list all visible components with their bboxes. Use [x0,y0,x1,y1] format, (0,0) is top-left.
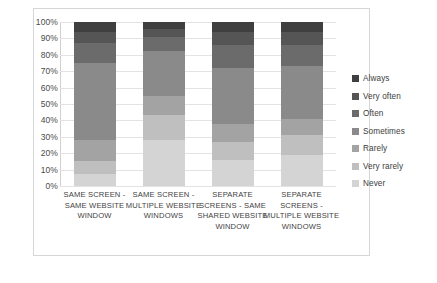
bar-segment-always[interactable] [281,22,323,32]
bar-2[interactable] [143,22,185,186]
y-axis-tick-0: 0% [24,182,58,190]
y-axis-tick-60: 60% [24,84,58,92]
legend-swatch-icon [352,75,359,82]
plot-area [60,22,336,186]
y-axis-tick-100: 100% [24,18,58,26]
legend-label: Always [363,74,390,83]
bar-segment-very-often[interactable] [281,32,323,45]
y-axis-tick-20: 20% [24,149,58,157]
y-axis-tick-40: 40% [24,116,58,124]
bar-segment-very-rarely[interactable] [281,135,323,155]
bar-segment-very-rarely[interactable] [212,142,254,160]
legend-item-very-often[interactable]: Very often [352,88,436,106]
y-axis-tick-80: 80% [24,51,58,59]
bar-segment-very-often[interactable] [74,32,116,43]
legend-item-never[interactable]: Never [352,175,436,193]
bar-1[interactable] [74,22,116,186]
bar-segment-never[interactable] [74,174,116,185]
bar-segment-often[interactable] [74,43,116,63]
legend-label: Very rarely [363,162,403,171]
y-axis-tick-50: 50% [24,100,58,108]
legend-swatch-icon [352,110,359,117]
y-axis-tick-10: 10% [24,166,58,174]
legend-swatch-icon [352,180,359,187]
bar-segment-often[interactable] [212,45,254,68]
bar-segment-never[interactable] [212,160,254,186]
bar-segment-very-often[interactable] [212,32,254,45]
bar-segment-rarely[interactable] [212,124,254,142]
x-axis-label-2: SAME SCREEN - MULTIPLE WEBSITE WINDOWS [125,190,203,222]
bar-segment-sometimes[interactable] [74,63,116,140]
chart-container: 100%90%80%70%60%50%40%30%20%10%0% SAME S… [0,0,437,283]
x-axis-category-labels: SAME SCREEN - SAME WEBSITE WINDOWSAME SC… [60,190,336,252]
legend-label: Rarely [363,144,387,153]
bar-segment-sometimes[interactable] [281,66,323,118]
gridline [60,186,336,187]
bar-segment-sometimes[interactable] [212,68,254,124]
legend-label: Very often [363,92,401,101]
bar-3[interactable] [212,22,254,186]
bar-segment-rarely[interactable] [143,96,185,116]
legend-swatch-icon [352,128,359,135]
bar-segment-rarely[interactable] [281,119,323,135]
bar-segment-always[interactable] [74,22,116,32]
chart-legend: AlwaysVery oftenOftenSometimesRarelyVery… [352,70,436,193]
x-axis-label-4: SEPARATE SCREENS - MULTIPLE WEBSITE WIND… [263,190,341,232]
legend-item-often[interactable]: Often [352,105,436,123]
legend-label: Sometimes [363,127,405,136]
bar-segment-very-rarely[interactable] [74,161,116,174]
legend-item-very-rarely[interactable]: Very rarely [352,158,436,176]
y-axis-tick-30: 30% [24,133,58,141]
y-axis-tick-70: 70% [24,67,58,75]
bar-segment-never[interactable] [281,155,323,186]
legend-label: Never [363,179,385,188]
bar-segment-always[interactable] [212,22,254,32]
y-axis-tick-90: 90% [24,34,58,42]
legend-swatch-icon [352,145,359,152]
legend-swatch-icon [352,93,359,100]
legend-item-always[interactable]: Always [352,70,436,88]
bar-segment-rarely[interactable] [74,140,116,161]
legend-item-rarely[interactable]: Rarely [352,140,436,158]
bar-segment-often[interactable] [281,45,323,66]
x-axis-label-1: SAME SCREEN - SAME WEBSITE WINDOW [56,190,134,222]
x-axis-label-3: SEPARATE SCREENS - SAME SHARED WEBSITE W… [194,190,272,232]
bar-segment-very-often[interactable] [143,29,185,37]
bar-segment-often[interactable] [143,37,185,52]
legend-label: Often [363,109,384,118]
y-axis-tick-labels: 100%90%80%70%60%50%40%30%20%10%0% [18,22,58,186]
legend-item-sometimes[interactable]: Sometimes [352,123,436,141]
legend-swatch-icon [352,163,359,170]
bar-segment-never[interactable] [143,140,185,186]
bar-segment-sometimes[interactable] [143,51,185,95]
bar-segment-very-rarely[interactable] [143,115,185,140]
bar-4[interactable] [281,22,323,186]
